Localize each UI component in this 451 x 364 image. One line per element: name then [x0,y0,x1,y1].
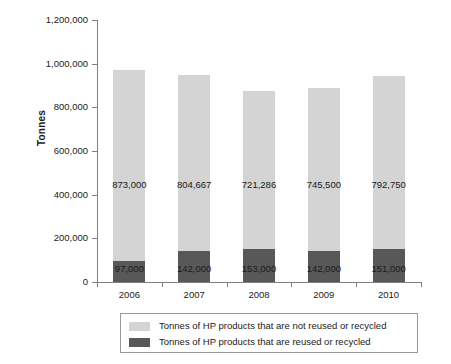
y-tick-label: 1,200,000 [11,14,97,25]
legend-item-not-reused: Tonnes of HP products that are not reuse… [129,319,386,333]
x-axis-label: 2006 [99,289,159,300]
y-tick-label: 800,000 [11,101,97,112]
y-tick-label: 600,000 [11,145,97,156]
bar-segment-not-reused[interactable] [373,76,405,249]
y-tick-label: 200,000 [11,232,97,243]
bar-segment-not-reused[interactable] [178,75,210,251]
x-tick-mark [356,282,357,287]
x-axis-line [97,282,421,283]
legend-label-not-reused: Tonnes of HP products that are not reuse… [159,321,386,331]
x-axis-label: 2008 [229,289,289,300]
bar-segment-not-reused[interactable] [308,88,340,251]
legend: Tonnes of HP products that are not reuse… [120,313,418,353]
legend-label-reused: Tonnes of HP products that are reused or… [159,337,371,347]
y-tick-label: 0 [11,276,97,287]
x-tick-mark [227,282,228,287]
x-tick-mark [421,282,422,287]
bar-segment-not-reused[interactable] [113,70,145,261]
stacked-bar-chart: Tonnes 0200,000400,000600,000800,0001,00… [0,0,451,364]
x-axis-label: 2007 [164,289,224,300]
x-tick-mark [291,282,292,287]
x-tick-mark [162,282,163,287]
y-axis-title: Tonnes [36,88,47,168]
legend-swatch-not-reused [129,322,150,331]
x-tick-mark [97,282,98,287]
legend-swatch-reused [129,338,150,347]
bar-value-label-reused: 151,000 [344,263,434,274]
y-tick-label: 1,000,000 [11,58,97,69]
bar-group[interactable] [113,70,145,282]
bar-value-label-not-reused: 792,750 [344,179,434,190]
bar-segment-not-reused[interactable] [243,91,275,248]
y-axis-line [97,20,98,283]
x-axis-label: 2010 [359,289,419,300]
x-axis-label: 2009 [294,289,354,300]
legend-item-reused: Tonnes of HP products that are reused or… [129,335,371,349]
